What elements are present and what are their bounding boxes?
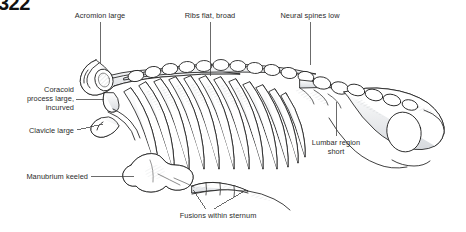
label-clavicle: Clavicle large [6, 126, 74, 135]
label-coracoid-process: Coracoid process large, incurved [6, 85, 74, 113]
label-fusions-sternum: Fusions within sternum [160, 211, 276, 220]
leader-fusions-a [193, 190, 206, 209]
label-acromion: Acromion large [48, 11, 152, 20]
label-manubrium: Manubrium keeled [2, 172, 88, 181]
leader-lines [0, 0, 466, 232]
leader-fusions-b [214, 190, 246, 209]
leader-clavicle [77, 124, 103, 130]
anatomical-figure: 322 [0, 0, 466, 232]
label-ribs: Ribs flat, broad [162, 11, 258, 20]
label-neural-spines: Neural spines low [258, 11, 362, 20]
label-lumbar-region: Lumbar region short [294, 138, 378, 156]
